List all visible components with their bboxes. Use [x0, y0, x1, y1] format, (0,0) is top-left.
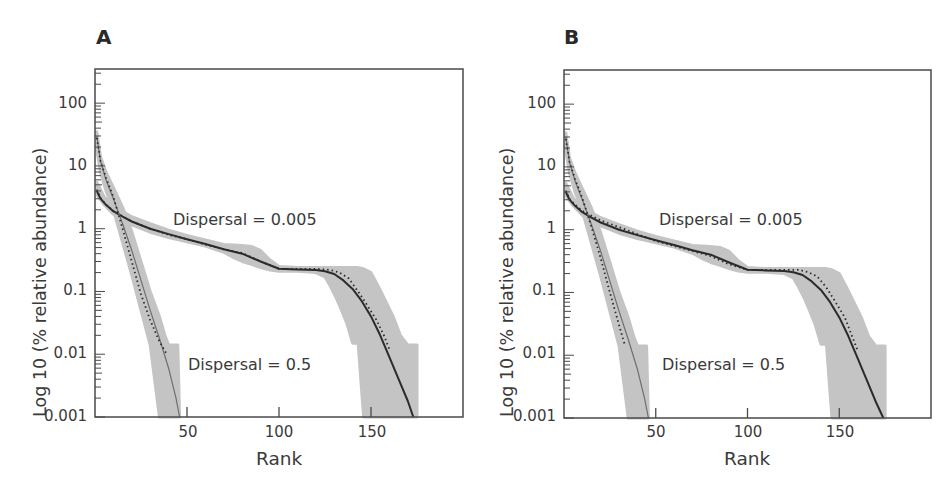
y-tick-label: 0.001 — [27, 407, 87, 425]
y-tick-label: 0.1 — [496, 281, 556, 299]
x-tick-label: 50 — [631, 423, 681, 441]
y-tick-label: 100 — [27, 94, 87, 112]
y-tick-label: 100 — [496, 94, 556, 112]
y-tick-label: 10 — [27, 156, 87, 174]
y-tick-label: 1 — [27, 219, 87, 237]
confidence-band — [97, 132, 180, 417]
panel-b: B Log 10 (% relative abundance) 100 10 1… — [475, 0, 950, 493]
confidence-band — [566, 133, 649, 418]
x-tick-label: 150 — [815, 423, 865, 441]
x-tick-label: 50 — [163, 423, 213, 441]
annotation-dispersal-low: Dispersal = 0.5 — [662, 355, 785, 374]
annotation-dispersal-low: Dispersal = 0.5 — [188, 355, 311, 374]
y-tick-label: 0.001 — [496, 407, 556, 425]
panel-a: A Log 10 (% relative abundance) 100 10 1… — [0, 0, 475, 493]
x-tick-label: 150 — [347, 423, 397, 441]
y-tick-label: 0.01 — [27, 344, 87, 362]
annotation-dispersal-high: Dispersal = 0.005 — [173, 210, 317, 229]
x-axis-label: Rank — [256, 448, 302, 469]
y-tick-label: 0.01 — [496, 344, 556, 362]
x-axis-label: Rank — [724, 448, 770, 469]
x-tick-label: 100 — [254, 423, 304, 441]
y-tick-label: 10 — [496, 156, 556, 174]
annotation-dispersal-high: Dispersal = 0.005 — [659, 210, 803, 229]
y-tick-label: 1 — [496, 219, 556, 237]
x-tick-label: 100 — [723, 423, 773, 441]
y-tick-label: 0.1 — [27, 281, 87, 299]
